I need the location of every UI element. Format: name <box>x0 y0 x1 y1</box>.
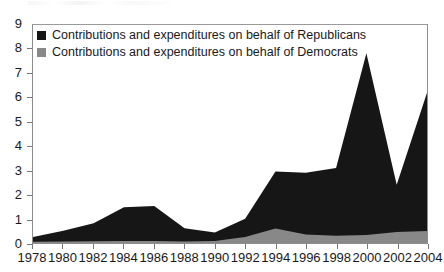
x-axis-tick-label: 1978 <box>18 249 47 266</box>
x-axis-tick-label: 2004 <box>414 249 443 266</box>
y-axis-tick-label: 3 <box>15 162 22 179</box>
chart-legend: Contributions and expenditures on behalf… <box>37 28 366 62</box>
legend-swatch-republicans-icon <box>37 31 46 40</box>
x-axis-tick-label: 2002 <box>383 249 412 266</box>
scan-artifact <box>28 1 178 5</box>
x-axis-tick-label: 1996 <box>292 249 321 266</box>
y-axis-tick-label: 1 <box>15 211 22 228</box>
x-axis-tick-label: 1986 <box>139 249 168 266</box>
area-series-republicans <box>33 53 427 243</box>
y-axis-tick-label: 5 <box>15 113 22 130</box>
legend-swatch-democrats-icon <box>37 48 46 57</box>
y-axis-tick-label: 8 <box>15 39 22 56</box>
x-axis-tick-label: 1998 <box>322 249 351 266</box>
stacked-area-chart: 0123456789 19781980198219841986198819901… <box>0 0 444 272</box>
legend-label-republicans: Contributions and expenditures on behalf… <box>52 28 366 43</box>
y-axis: 0123456789 <box>0 24 32 244</box>
x-axis-tick-label: 1984 <box>109 249 138 266</box>
legend-label-democrats: Contributions and expenditures on behalf… <box>52 45 358 60</box>
y-axis-tick-label: 2 <box>15 186 22 203</box>
x-axis-tick-label: 2000 <box>353 249 382 266</box>
x-axis-tick-label: 1992 <box>231 249 260 266</box>
y-axis-tick-label: 9 <box>15 15 22 32</box>
y-axis-tick-label: 6 <box>15 88 22 105</box>
legend-item-republicans: Contributions and expenditures on behalf… <box>37 28 366 43</box>
x-axis-tick-label: 1982 <box>78 249 107 266</box>
x-axis-tick-label: 1988 <box>170 249 199 266</box>
legend-item-democrats: Contributions and expenditures on behalf… <box>37 45 366 60</box>
y-axis-tick-label: 4 <box>15 137 22 154</box>
x-axis-tick-label: 1980 <box>48 249 77 266</box>
y-axis-tick-label: 7 <box>15 64 22 81</box>
x-axis-tick-label: 1990 <box>200 249 229 266</box>
x-axis: 1978198019821984198619881990199219941996… <box>32 244 428 270</box>
x-axis-tick-label: 1994 <box>261 249 290 266</box>
